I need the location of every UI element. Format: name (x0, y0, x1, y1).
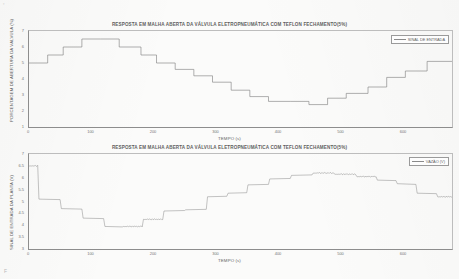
x-tick-label: 600 (400, 129, 407, 134)
x-tick-label: 400 (275, 251, 282, 256)
plot-area (28, 30, 453, 128)
x-tick-label: 400 (275, 129, 282, 134)
y-tick-label: 3.5 (8, 234, 24, 239)
figure-plant-input-signal: RESPOSTA EM MALHA ABERTA DA VÁLVULA ELET… (0, 140, 459, 265)
x-tick-label: 100 (87, 129, 94, 134)
plot-area (28, 153, 453, 250)
x-tick-label: 0 (27, 251, 29, 256)
y-tick-label: 2 (8, 108, 24, 113)
y-tick-label: 6.5 (8, 162, 24, 167)
y-tick-label: 5 (8, 60, 24, 65)
x-tick-label: 300 (212, 129, 219, 134)
chart-title: RESPOSTA EM MALHA ABERTA DA VÁLVULA ELET… (0, 22, 459, 27)
y-tick-label: 1 (8, 124, 24, 129)
x-tick-label: 300 (212, 251, 219, 256)
y-tick-label: 3 (8, 92, 24, 97)
x-tick-label: 200 (150, 129, 157, 134)
series-path (29, 39, 452, 105)
x-tick-label: 600 (400, 251, 407, 256)
x-tick-label: 100 (87, 251, 94, 256)
scan-mark-bottom-left: F (4, 268, 7, 274)
plot-line-vazao (29, 154, 452, 249)
series-path (29, 165, 452, 227)
legend-label-sinal-de-entrada: SINAL DE ENTRADA (408, 37, 445, 42)
legend-line-swatch (412, 161, 424, 162)
y-tick-label: 7 (8, 151, 24, 156)
x-tick-label: 500 (337, 129, 344, 134)
y-tick-label: 5.5 (8, 186, 24, 191)
chart-legend: SINAL DE ENTRADA (391, 35, 449, 44)
y-tick-label: 3 (8, 246, 24, 251)
x-tick-label: 500 (337, 251, 344, 256)
y-tick-label: 6 (8, 174, 24, 179)
y-tick-label: 4 (8, 222, 24, 227)
y-tick-label: 7 (8, 28, 24, 33)
figure-valve-opening-percentage: RESPOSTA EM MALHA ABERTA DA VÁLVULA ELET… (0, 10, 459, 138)
y-tick-label: 4.5 (8, 210, 24, 215)
x-axis-label: TEMPO (s) (0, 258, 459, 263)
x-tick-label: 0 (27, 129, 29, 134)
scan-mark-top-left: ▫ (3, 1, 4, 6)
plot-line-sinal-de-entrada (29, 31, 452, 127)
x-tick-label: 200 (150, 251, 157, 256)
y-tick-label: 5 (8, 198, 24, 203)
legend-line-swatch (394, 39, 406, 40)
y-tick-label: 4 (8, 76, 24, 81)
legend-label-vazao: VAZÃO (V) (426, 159, 445, 164)
chart-legend: VAZÃO (V) (409, 157, 449, 166)
y-tick-label: 6 (8, 44, 24, 49)
chart-title: RESPOSTA EM MALHA ABERTA DA VÁLVULA ELET… (0, 145, 459, 150)
